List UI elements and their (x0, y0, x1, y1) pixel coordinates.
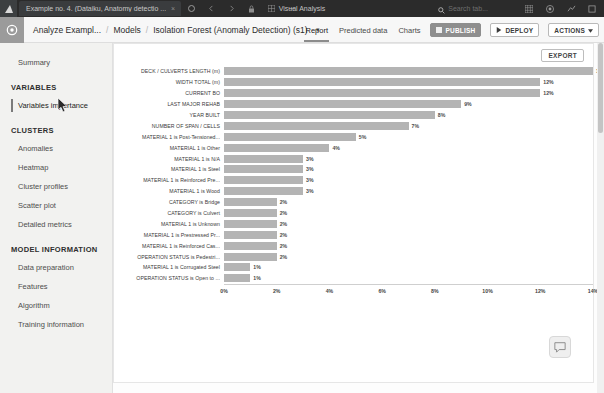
profile-icon[interactable] (540, 0, 560, 17)
chart-bar[interactable] (224, 67, 593, 75)
chart-bar[interactable] (224, 231, 277, 239)
chart-bar-value: 12% (543, 79, 553, 85)
chart-bar-track: 2% (224, 197, 593, 208)
sidebar-section-variables: VARIABLES (0, 72, 112, 96)
new-tab-icon[interactable] (181, 0, 201, 17)
chart-bar[interactable] (224, 111, 435, 119)
back-icon[interactable] (201, 0, 221, 17)
header-actions: Report Predicted data Charts PUBLISH DEP… (304, 17, 599, 43)
mouse-cursor (57, 98, 68, 117)
sidebar-item-summary[interactable]: Summary (0, 53, 112, 72)
chart-bar-track: 5% (224, 131, 593, 142)
browser-search[interactable]: Search tab... (438, 0, 488, 18)
forward-icon[interactable] (221, 0, 241, 17)
sidebar-item-variables-importance[interactable]: Variables importance (0, 96, 112, 115)
chart-row: CURRENT BO12% (114, 88, 593, 99)
chart-bar[interactable] (224, 253, 277, 261)
chart-row: MATERIAL 1 is Steel3% (114, 164, 593, 175)
breadcrumb-item-models[interactable]: Models (113, 25, 140, 35)
deploy-button[interactable]: DEPLOY (490, 23, 539, 37)
tab-predicted-data[interactable]: Predicted data (338, 17, 388, 43)
sidebar: SummaryVARIABLESVariables importanceCLUS… (0, 43, 113, 393)
chart-bar[interactable] (224, 209, 277, 217)
variable-importance-chart: DECK / CULVERTS LENGTH (m)14%WIDTH TOTAL… (114, 66, 593, 298)
actions-button[interactable]: ACTIONS (548, 23, 599, 37)
chart-row: LAST MAJOR REHAB9% (114, 99, 593, 110)
chart-bar-value: 5% (359, 134, 367, 140)
chart-bar[interactable] (224, 220, 277, 228)
sidebar-item-training-information[interactable]: Training information (0, 315, 112, 334)
sidebar-item-data-preparation[interactable]: Data preparation (0, 258, 112, 277)
chart-bar-value: 12% (543, 90, 553, 96)
chart-row: YEAR BUILT8% (114, 110, 593, 121)
breadcrumb-separator: / (106, 25, 108, 35)
chart-bar[interactable] (224, 78, 540, 86)
more-icon[interactable] (582, 0, 602, 17)
chart-row: MATERIAL 1 is Reinforced Cas...2% (114, 240, 593, 251)
chart-bar-track: 2% (224, 229, 593, 240)
chart-category-label: NUMBER OF SPAN / CELLS (114, 123, 224, 129)
chart-bar[interactable] (224, 155, 303, 163)
chart-bar-value: 4% (332, 145, 340, 151)
chart-bar[interactable] (224, 89, 540, 97)
chat-icon[interactable] (549, 336, 571, 358)
sidebar-item-scatter-plot[interactable]: Scatter plot (0, 196, 112, 215)
chart-bar-track: 12% (224, 88, 593, 99)
sidebar-item-heatmap[interactable]: Heatmap (0, 158, 112, 177)
chart-row: NUMBER OF SPAN / CELLS7% (114, 120, 593, 131)
chart-bar-value: 3% (306, 177, 314, 183)
sidebar-item-features[interactable]: Features (0, 277, 112, 296)
chart-category-label: WIDTH TOTAL (m) (114, 79, 224, 85)
chart-category-label: OPERATION STATUS is Pedestri... (114, 254, 224, 260)
gear-icon[interactable] (0, 17, 24, 43)
tab-report[interactable]: Report (304, 17, 329, 43)
chart-category-label: DECK / CULVERTS LENGTH (m) (114, 68, 224, 74)
sidebar-item-detailed-metrics[interactable]: Detailed metrics (0, 215, 112, 234)
page-scrollbar-thumb[interactable] (598, 43, 603, 133)
chart-x-tick: 6% (378, 288, 386, 294)
breadcrumb-item-model[interactable]: Isolation Forest (Anomaly Detection) (s1… (153, 25, 307, 35)
grid-icon[interactable] (261, 0, 281, 17)
chart-bar[interactable] (224, 133, 356, 141)
sidebar-item-anomalies[interactable]: Anomalies (0, 139, 112, 158)
activity-icon[interactable] (561, 0, 581, 17)
tab-close-icon[interactable]: × (171, 5, 175, 12)
tab-charts[interactable]: Charts (397, 17, 421, 43)
chart-category-label: MATERIAL 1 is Unknown (114, 221, 224, 227)
chart-bar-track: 2% (224, 208, 593, 219)
apps-grid-icon[interactable] (519, 0, 539, 17)
breadcrumb-item-analysis[interactable]: Analyze Exampl... (33, 25, 101, 35)
chart-bar-value: 2% (280, 243, 288, 249)
chart-x-tick: 4% (326, 288, 334, 294)
chart-bar-value: 2% (280, 221, 288, 227)
chart-bar[interactable] (224, 263, 250, 271)
lock-icon[interactable] (241, 0, 261, 17)
chart-bar[interactable] (224, 274, 250, 282)
chart-bar[interactable] (224, 100, 461, 108)
chart-bar[interactable] (224, 176, 303, 184)
chart-bar[interactable] (224, 165, 303, 173)
browser-tab[interactable]: Example no. 4. (Dataiku, Anatomy detecti… (19, 1, 181, 16)
chart-bar[interactable] (224, 122, 409, 130)
deploy-button-label: DEPLOY (505, 27, 533, 34)
main-panel: EXPORT DECK / CULVERTS LENGTH (m)14%WIDT… (113, 43, 594, 383)
export-button[interactable]: EXPORT (541, 49, 584, 62)
chart-bar[interactable] (224, 187, 303, 195)
publish-button[interactable]: PUBLISH (430, 23, 481, 37)
chart-bar[interactable] (224, 198, 277, 206)
chart-bar[interactable] (224, 242, 277, 250)
chart-row: OPERATION STATUS is Pedestri...2% (114, 251, 593, 262)
chart-bar-track: 4% (224, 142, 593, 153)
chart-bar-track: 1% (224, 262, 593, 273)
chart-category-label: MATERIAL 1 is Reinforced Pre... (114, 177, 224, 183)
sidebar-item-algorithm[interactable]: Algorithm (0, 296, 112, 315)
chart-bar-track: 3% (224, 164, 593, 175)
chart-category-label: OPERATION STATUS is Open to ... (114, 275, 224, 281)
chart-bar-track: 8% (224, 110, 593, 121)
chart-x-tick: 0% (220, 288, 228, 294)
chart-bar-track: 12% (224, 77, 593, 88)
minimize-icon[interactable] (281, 0, 301, 17)
sidebar-item-cluster-profiles[interactable]: Cluster profiles (0, 177, 112, 196)
page-scrollbar[interactable] (597, 43, 604, 393)
chart-bar[interactable] (224, 144, 329, 152)
